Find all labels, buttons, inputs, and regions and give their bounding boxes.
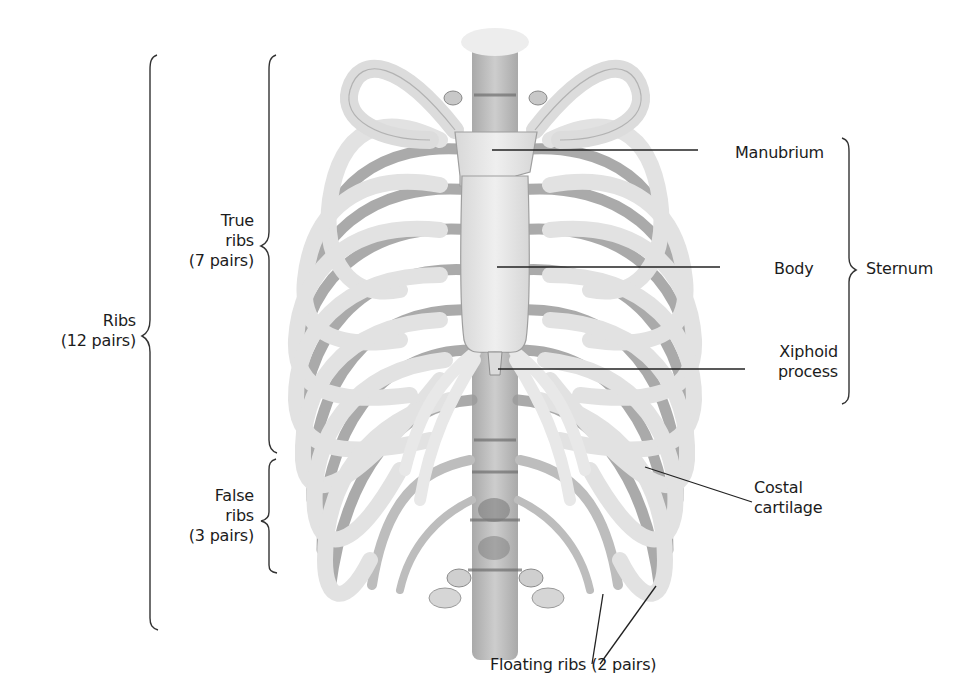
floating-rib-leader-2: [600, 586, 656, 664]
false-ribs-label: False ribs (3 pairs): [170, 486, 254, 546]
floating-ribs-label: Floating ribs (2 pairs): [490, 655, 656, 675]
manubrium-label: Manubrium: [735, 143, 824, 163]
costal-cartilage-label: Costal cartilage: [754, 478, 822, 518]
ribs-brace: [142, 55, 158, 630]
sternum-label: Sternum: [866, 259, 933, 279]
true-ribs-brace: [261, 55, 277, 453]
rib-cage-diagram: Ribs (12 pairs) True ribs (7 pairs) Fals…: [0, 0, 978, 697]
sternum-shape: [455, 132, 537, 375]
false-ribs-brace: [261, 459, 277, 573]
true-ribs-label: True ribs (7 pairs): [170, 211, 254, 271]
ribs-label: Ribs (12 pairs): [30, 311, 136, 351]
body-label: Body: [774, 259, 814, 279]
sternum-brace: [842, 138, 856, 404]
floating-rib-leader-1: [592, 594, 603, 664]
xiphoid-process-label: Xiphoid process: [752, 342, 838, 382]
